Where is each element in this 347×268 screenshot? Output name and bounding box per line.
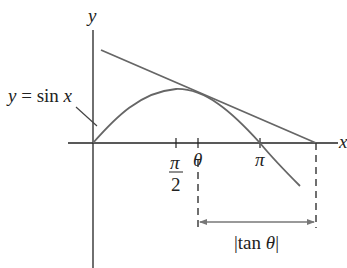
abs-close: | — [275, 232, 279, 253]
tangent-line — [101, 50, 316, 143]
arrowhead-left-icon — [199, 219, 207, 225]
dimension-fn: tan — [238, 232, 261, 253]
dimension-var: θ — [266, 232, 275, 253]
tick-label-pi: π — [255, 150, 265, 169]
curve-label-var: x — [64, 85, 72, 106]
sine-curve — [93, 89, 300, 186]
curve-label: y = sin x — [8, 86, 72, 105]
curve-label-lhs: y — [8, 85, 16, 106]
curve-label-leader — [76, 107, 97, 126]
curve-label-fn: sin — [37, 85, 59, 106]
x-axis-label: x — [339, 132, 347, 151]
y-axis-label: y — [88, 6, 96, 25]
arrowhead-right-icon — [307, 219, 315, 225]
dimension-label: |tan θ| — [234, 233, 279, 252]
tick-label-pi-over-2-den: 2 — [171, 175, 181, 194]
curve-label-eq: = — [21, 85, 32, 106]
tick-label-theta: θ — [193, 150, 202, 169]
tick-label-pi-over-2-num: π — [170, 153, 180, 172]
